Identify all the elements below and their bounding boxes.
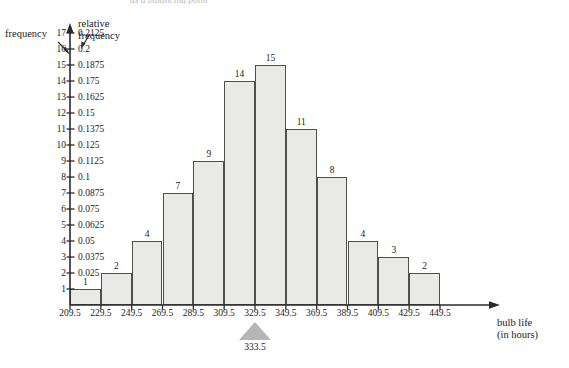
y-axis-tick: 160.2: [38, 44, 158, 54]
histogram-figure: as a balancing point frequency relative …: [0, 0, 569, 368]
y-axis-tick: 100.125: [38, 140, 158, 150]
y-axis-frequency-tick-label: 7: [46, 188, 66, 198]
y-axis-frequency-tick-label: 14: [46, 76, 66, 86]
x-axis-tick-label: 449.5: [429, 308, 450, 319]
histogram-bar: [317, 177, 348, 305]
x-axis-arrow-icon: [489, 301, 500, 309]
bar-value-label: 3: [391, 245, 396, 255]
y-axis-frequency-tick-label: 8: [46, 172, 66, 182]
histogram-bar: [193, 161, 224, 305]
x-axis-tick-label: 249.5: [121, 308, 142, 319]
x-axis-tick-label: 429.5: [398, 308, 419, 319]
bar-value-label: 11: [297, 117, 306, 127]
bar-value-label: 9: [206, 149, 211, 159]
y-axis-relative-frequency-tick-label: 0.2: [78, 44, 90, 54]
y-axis-frequency-tick-label: 1: [46, 284, 66, 294]
x-axis-tick-label: 289.5: [183, 308, 204, 319]
x-axis-title-line2: (in hours): [497, 329, 538, 341]
y-axis-relative-frequency-tick-label: 0.15: [78, 108, 95, 118]
bar-value-label: 14: [235, 69, 245, 79]
y-axis-frequency-tick-label: 9: [46, 156, 66, 166]
x-axis-title: bulb life (in hours): [497, 317, 538, 340]
balance-point-marker-icon: [239, 322, 271, 340]
x-axis-tick-label: 409.5: [368, 308, 389, 319]
histogram-bar: [348, 241, 379, 305]
y-axis-frequency-tick-label: 16: [46, 44, 66, 54]
histogram-bar: [409, 273, 440, 305]
histogram-bar: [255, 65, 286, 305]
y-axis-relative-frequency-tick-label: 0.175: [78, 76, 99, 86]
y-axis-tick: 70.0875: [38, 188, 158, 198]
x-axis-tick-label: 229.5: [90, 308, 111, 319]
y-axis-relative-frequency-tick-label: 0.1125: [78, 156, 104, 166]
y-axis-frequency-tick-label: 17: [46, 28, 66, 38]
x-axis-tick-label: 329.5: [244, 308, 265, 319]
y-axis-tick: 20.025: [38, 268, 158, 278]
x-axis-tick-label: 369.5: [306, 308, 327, 319]
y-axis-tick: 150.1875: [38, 60, 158, 70]
y-axis-frequency-tick-label: 13: [46, 92, 66, 102]
y-axis-relative-frequency-tick-label: 0.125: [78, 140, 99, 150]
y-axis-relative-frequency-tick-label: 0.05: [78, 236, 95, 246]
x-axis-tick-label: 269.5: [152, 308, 173, 319]
y-axis-relative-frequency-tick-label: 0.0375: [78, 252, 104, 262]
bar-value-label: 15: [266, 53, 276, 63]
y-axis-relative-frequency-tick-label: 0.1375: [78, 124, 104, 134]
y-axis-frequency-tick-label: 4: [46, 236, 66, 246]
y-axis-relative-frequency-tick-label: 0.0625: [78, 220, 104, 230]
figure-caption: as a balancing point: [130, 0, 460, 4]
x-axis-tick-label: 209.5: [59, 308, 80, 319]
y-axis-relative-frequency-tick-label: 0.1625: [78, 92, 104, 102]
y-axis-relative-frequency-tick-label: 0.1875: [78, 60, 104, 70]
y-axis-tick: 110.1375: [38, 124, 158, 134]
y-axis-tick: 1: [38, 284, 158, 294]
bar-value-label: 8: [330, 165, 335, 175]
y-axis-tick: 30.0375: [38, 252, 158, 262]
y-axis-frequency-tick-label: 3: [46, 252, 66, 262]
y-axis-tick: 40.05: [38, 236, 158, 246]
y-axis-relative-frequency-tick-label: 0.2125: [78, 28, 104, 38]
y-axis-relative-frequency-tick-label: 0.1: [78, 172, 90, 182]
y-axis-frequency-tick-label: 15: [46, 60, 66, 70]
y-axis-frequency-tick-label: 5: [46, 220, 66, 230]
histogram-bar: [163, 193, 194, 305]
x-axis-title-line1: bulb life: [497, 317, 538, 329]
y-axis-tick: 60.075: [38, 204, 158, 214]
y-axis-tick: 80.1: [38, 172, 158, 182]
y-axis-relative-frequency-tick-label: 0.0875: [78, 188, 104, 198]
y-axis-tick: 130.1625: [38, 92, 158, 102]
x-axis-tick-label: 389.5: [337, 308, 358, 319]
y-axis-tick: 140.175: [38, 76, 158, 86]
y-axis-tick: 170.2125: [38, 28, 158, 38]
y-axis-frequency-tick-label: 11: [46, 124, 66, 134]
histogram-bar: [286, 129, 317, 305]
bar-value-label: 4: [361, 229, 366, 239]
y-axis-frequency-tick-label: 10: [46, 140, 66, 150]
bar-value-label: 2: [422, 261, 427, 271]
y-axis-frequency-tick-label: 12: [46, 108, 66, 118]
x-axis-tick-label: 349.5: [275, 308, 296, 319]
x-axis-tick-label: 309.5: [213, 308, 234, 319]
histogram-bar: [224, 81, 255, 305]
y-axis-tick: 50.0625: [38, 220, 158, 230]
histogram-bar: [378, 257, 409, 305]
balance-point-label: 333.5: [244, 342, 265, 353]
y-axis-relative-frequency-tick-label: 0.025: [78, 268, 99, 278]
y-axis-relative-frequency-tick-label: 0.075: [78, 204, 99, 214]
y-axis-tick: 120.15: [38, 108, 158, 118]
y-axis-frequency-tick-label: 6: [46, 204, 66, 214]
y-axis-tick: 90.1125: [38, 156, 158, 166]
bar-value-label: 7: [176, 181, 181, 191]
y-axis-frequency-tick-label: 2: [46, 268, 66, 278]
